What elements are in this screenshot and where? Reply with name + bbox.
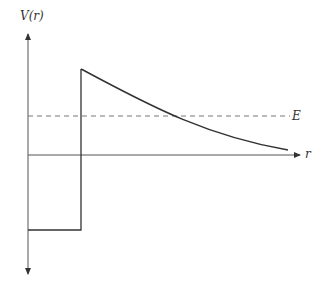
r-axis-label: r (305, 148, 311, 160)
square-well (28, 69, 81, 230)
coulomb-barrier-curve (81, 69, 288, 150)
diagram-canvas (0, 0, 324, 295)
y-axis-label: V(r) (20, 10, 44, 22)
energy-label: E (292, 110, 301, 122)
potential-diagram: V(r) E r (0, 0, 324, 295)
